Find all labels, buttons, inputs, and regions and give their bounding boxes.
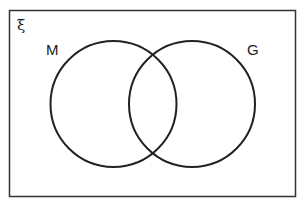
set-m-label: M <box>46 41 59 58</box>
set-m-circle <box>51 41 177 167</box>
set-g-circle <box>129 41 255 167</box>
universal-set-rectangle <box>10 11 296 197</box>
universal-set-symbol: ξ <box>17 16 25 34</box>
venn-diagram <box>0 0 307 206</box>
set-g-label: G <box>247 41 259 58</box>
